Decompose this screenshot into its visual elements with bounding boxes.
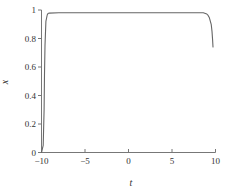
x-tick-label: 10: [211, 156, 221, 166]
x-tick-label: 0: [126, 156, 131, 166]
x-tick-label: −10: [34, 156, 49, 166]
tick-marks: [38, 10, 216, 153]
x-axis-label: t: [130, 177, 133, 188]
data-curve: [42, 13, 214, 153]
x-tick-label: 5: [170, 156, 175, 166]
y-tick-label: 0: [32, 148, 37, 158]
figure: −10−5051000.20.40.60.81 t x: [0, 0, 226, 192]
y-tick-label: 0.2: [25, 119, 36, 129]
tick-labels: −10−5051000.20.40.60.81: [25, 5, 221, 166]
line-chart: −10−5051000.20.40.60.81 t x: [0, 0, 226, 192]
y-tick-label: 1: [32, 5, 37, 15]
y-tick-label: 0.6: [25, 62, 37, 72]
y-tick-label: 0.4: [25, 91, 37, 101]
y-axis-label: x: [0, 79, 10, 85]
x-tick-label: −5: [80, 156, 90, 166]
y-tick-label: 0.8: [25, 34, 37, 44]
axes: [42, 10, 216, 153]
